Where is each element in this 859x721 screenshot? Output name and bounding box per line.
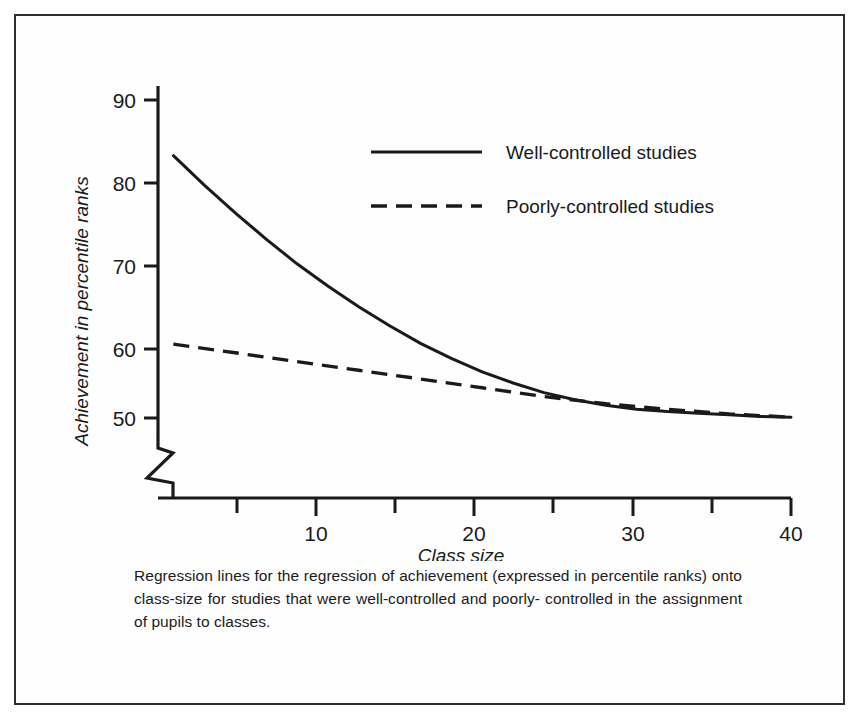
series-line-poorly-controlled (173, 344, 791, 417)
legend-item-well-controlled: Well-controlled studies (371, 142, 697, 163)
y-tick-label-70: 70 (113, 255, 136, 278)
chart-plot-area: 90 80 70 60 50 Achievement in percentile… (16, 16, 847, 561)
figure-caption: Regression lines for the regression of a… (134, 564, 742, 633)
x-tick-label-30: 30 (621, 522, 644, 545)
y-tick-label-90: 90 (113, 89, 136, 112)
chart-legend: Well-controlled studies Poorly-controlle… (371, 142, 714, 217)
series-line-well-controlled (173, 156, 791, 418)
x-axis-title: Class size (418, 545, 505, 561)
legend-label-poorly-controlled: Poorly-controlled studies (506, 196, 714, 217)
regression-line-chart: 90 80 70 60 50 Achievement in percentile… (16, 16, 847, 561)
y-axis-break-icon (147, 434, 173, 498)
y-axis-title: Achievement in percentile ranks (71, 176, 92, 447)
legend-label-well-controlled: Well-controlled studies (506, 142, 697, 163)
x-tick-label-40: 40 (779, 522, 802, 545)
legend-item-poorly-controlled: Poorly-controlled studies (371, 196, 714, 217)
figure-frame: 90 80 70 60 50 Achievement in percentile… (14, 14, 845, 705)
x-tick-label-20: 20 (462, 522, 485, 545)
y-tick-label-60: 60 (113, 338, 136, 361)
y-tick-label-80: 80 (113, 172, 136, 195)
y-tick-label-50: 50 (113, 407, 136, 430)
caption-line-1: Regression lines for the regression of a… (134, 567, 659, 584)
x-tick-label-10: 10 (304, 522, 327, 545)
